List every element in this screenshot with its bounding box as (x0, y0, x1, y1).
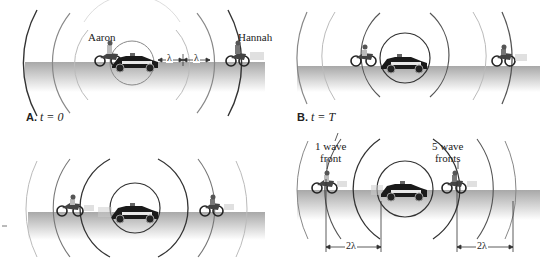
label-line: 5 wave (432, 140, 463, 152)
dimension-label-left: 2λ (345, 240, 357, 251)
lambda-label-1: λ (166, 52, 173, 63)
panel-b-caption: B. t = T (297, 110, 335, 125)
label-line: 1 wave (315, 140, 346, 152)
panel-a: Aaron Hannah λ λ A. t = 0 (0, 0, 275, 129)
dimension-label-right: 2λ (476, 240, 488, 251)
label-5-wave-fronts: 5 wave fronts (432, 140, 463, 164)
motorcycle-hannah (492, 45, 527, 67)
panel-time: t = T (311, 110, 335, 124)
panel-letter: B. (297, 111, 308, 123)
lambda-label-2: λ (193, 52, 200, 63)
motorcycle-left (312, 171, 347, 194)
label-hannah: Hannah (238, 31, 272, 43)
label-aaron: Aaron (88, 31, 116, 43)
motorcycle-aaron (351, 45, 376, 67)
panel-d: 1 wave front 5 wave fronts 2λ 2λ (275, 129, 550, 258)
label-line: front (315, 152, 346, 164)
panel-c (0, 129, 275, 258)
label-line: fronts (432, 152, 463, 164)
panel-b: B. t = T (275, 0, 550, 129)
panel-c-scene (0, 129, 275, 258)
label-1-wave-front: 1 wave front (315, 140, 346, 164)
panel-a-caption: A. t = 0 (26, 110, 63, 125)
panel-time: t = 0 (40, 110, 63, 124)
panel-letter: A. (26, 111, 37, 123)
